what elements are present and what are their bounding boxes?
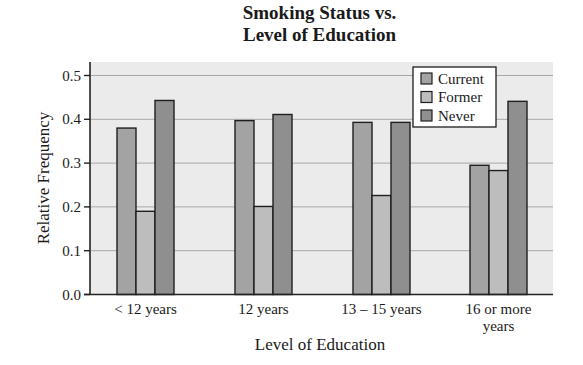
y-tick-label: 0.3	[62, 155, 81, 171]
bar-current	[470, 165, 489, 294]
x-tick-label: 13 – 15 years	[341, 301, 422, 317]
y-axis-label: Relative Frequency	[34, 111, 53, 244]
bar-former	[136, 211, 155, 294]
y-tick-label: 0.2	[62, 199, 81, 215]
x-axis-tick-labels: < 12 years12 years13 – 15 years16 or mor…	[114, 301, 532, 334]
legend-label: Current	[438, 71, 485, 87]
x-tick-label: < 12 years	[114, 301, 177, 317]
bar-former	[489, 171, 508, 295]
legend-swatch-current	[421, 73, 432, 84]
bar-former	[372, 196, 391, 295]
y-tick-label: 0.0	[62, 287, 81, 303]
y-tick-label: 0.5	[62, 68, 81, 84]
bar-never	[273, 114, 292, 294]
x-tick-label: 16 or more	[466, 301, 532, 317]
legend-label: Never	[438, 108, 475, 124]
x-tick-label: 12 years	[238, 301, 289, 317]
legend-label: Former	[438, 89, 482, 105]
bar-current	[353, 122, 372, 294]
x-tick-label: years	[483, 318, 515, 334]
bar-never	[155, 100, 174, 294]
y-tick-label: 0.1	[62, 243, 81, 259]
legend: CurrentFormerNever	[413, 67, 496, 127]
bar-former	[254, 206, 273, 294]
bar-never	[391, 122, 410, 294]
bar-never	[508, 101, 527, 294]
x-axis-label: Level of Education	[255, 335, 386, 354]
legend-swatch-never	[421, 110, 432, 121]
y-tick-label: 0.4	[62, 111, 81, 127]
legend-swatch-former	[421, 92, 432, 103]
bar-chart: 0.00.10.20.30.40.5 < 12 years12 years13 …	[0, 0, 583, 365]
y-axis-ticks: 0.00.10.20.30.40.5	[62, 68, 90, 303]
bar-current	[117, 128, 136, 294]
bar-current	[235, 121, 254, 295]
